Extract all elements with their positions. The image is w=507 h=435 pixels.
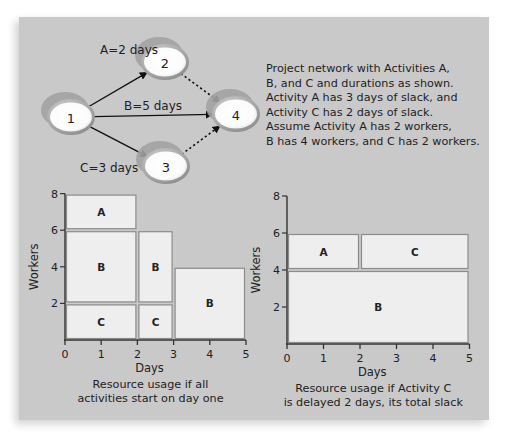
network-description: Project network with Activities A, B, an… [266,62,491,150]
y-tick-label: 4 [273,264,280,277]
block-label: B [151,261,159,273]
arrow-1-to-4 [93,114,212,116]
node-label: 2 [161,56,169,71]
chart-caption-line: activities start on day one [77,392,223,405]
block-c: C [362,235,469,269]
x-tick-label: 2 [134,348,141,361]
x-tick-label: 4 [430,352,437,365]
block-b: B [175,268,244,338]
block-b: B [139,232,172,302]
block-b: B [67,232,136,302]
edge-label: C=3 days [80,161,138,175]
description-line: B, and C and durations as shown. [266,77,491,92]
x-tick-label: 5 [243,348,250,361]
block-a: A [67,195,136,229]
description-line: Assume Activity A has 2 workers, [266,120,491,135]
description-line: Activity C has 2 days of slack. [266,106,491,121]
y-tick-label: 2 [273,301,280,314]
block-label: C [152,316,160,328]
x-tick-label: 1 [320,352,327,365]
block-c: C [139,305,172,339]
x-tick-label: 0 [62,348,69,361]
y-tick-label: 6 [273,227,280,240]
y-tick-label: 8 [273,190,280,203]
x-tick-label: 3 [393,352,400,365]
block-label: A [319,246,328,258]
y-tick-label: 6 [51,224,58,237]
x-tick-label: 4 [206,348,213,361]
edge-label: A=2 days [100,43,158,57]
description-line: Activity A has 3 days of slack, and [266,91,491,106]
resource-chart-c-delayed: ACB0123452468DaysWorkersResource usage i… [249,190,473,409]
y-axis-title: Workers [249,247,263,294]
description-line: B has 4 workers, and C has 2 workers. [266,135,491,150]
chart-caption-line: Resource usage if all [93,378,209,391]
x-tick-label: 0 [284,352,291,365]
block-c: C [67,305,136,339]
node-label: 4 [232,108,240,123]
node-3: 3 [136,141,190,184]
x-tick-label: 5 [466,352,473,365]
block-label: A [97,206,106,218]
chart-caption-line: Resource usage if Activity C [295,382,451,395]
x-tick-label: 2 [357,352,364,365]
block-label: B [374,301,382,313]
node-label: 3 [162,160,170,175]
y-tick-label: 8 [51,188,58,201]
x-tick-label: 1 [98,348,105,361]
node-label: 1 [67,111,75,126]
node-4: 4 [206,89,260,132]
project-network: 1234 A=2 daysB=5 daysC=3 days [41,37,260,184]
x-axis-title: Days [135,361,164,375]
edge-label: B=5 days [124,99,182,113]
block-a: A [289,235,359,269]
arrow-3-to-4 [182,126,220,154]
block-label: B [97,261,105,273]
y-axis-title: Workers [27,244,41,291]
block-b: B [289,272,469,343]
description-line: Project network with Activities A, [266,62,491,77]
x-tick-label: 3 [170,348,177,361]
chart-caption-line: is delayed 2 days, its total slack [284,396,464,409]
x-axis-title: Days [358,365,387,379]
block-label: B [206,297,214,309]
block-label: C [411,246,419,258]
resource-chart-all-start-day-one: ABCBCB0123452468DaysWorkersResource usag… [27,188,250,405]
block-label: C [97,316,105,328]
y-tick-label: 4 [51,261,58,274]
node-1: 1 [41,92,95,135]
y-tick-label: 2 [51,297,58,310]
